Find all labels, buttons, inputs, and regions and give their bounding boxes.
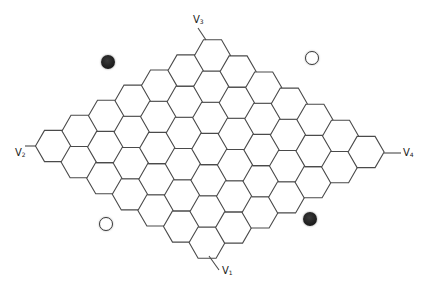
vertex-name: V — [222, 265, 229, 276]
vertex-label-v4: V4 — [403, 148, 414, 158]
hex-board — [0, 0, 424, 291]
white-stone — [305, 51, 319, 65]
black-stone — [303, 212, 317, 226]
vertex-subscript: 4 — [410, 151, 414, 158]
vertex-subscript: 3 — [200, 18, 204, 25]
hex-cells — [36, 40, 385, 258]
vertex-subscript: 2 — [22, 151, 26, 158]
white-stone — [99, 217, 113, 231]
vertex-stub-v3 — [198, 28, 206, 40]
black-stone — [101, 55, 115, 69]
vertex-name: V — [193, 14, 200, 25]
vertex-label-v3: V3 — [193, 15, 204, 25]
vertex-name: V — [403, 147, 410, 158]
vertex-label-v1: V1 — [222, 266, 233, 276]
vertex-subscript: 1 — [229, 269, 233, 276]
vertex-name: V — [15, 147, 22, 158]
vertex-label-v2: V2 — [15, 148, 26, 158]
